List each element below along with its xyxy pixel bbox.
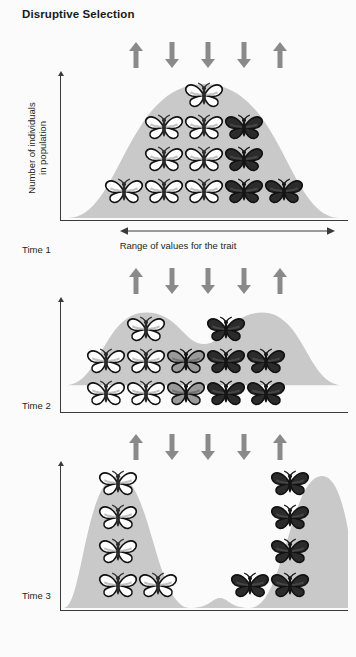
plot-area [60,424,348,632]
selection-arrow-up [272,434,288,460]
butterfly-light [126,316,166,343]
y-axis-arrowhead [58,297,64,302]
butterfly-light [184,146,224,173]
butterfly-light [98,538,138,565]
selection-panel-3: Time 3 [0,424,356,632]
butterfly-dark [206,348,246,375]
selection-panel-2: Time 2 [0,262,356,414]
butterfly-dark [224,178,264,205]
butterfly-dark [270,470,310,497]
plot-area [60,32,348,228]
x-axis [60,220,348,221]
selection-arrow-down [236,268,252,294]
butterfly-light [86,380,126,407]
butterfly-light [86,348,126,375]
butterfly-light [98,572,138,599]
x-axis [60,610,348,611]
selection-arrow-down [236,42,252,68]
butterfly-mid [166,348,206,375]
butterfly-light [144,146,184,173]
y-axis-arrowhead [58,461,64,466]
butterfly-dark [270,538,310,565]
selection-arrow-up [128,434,144,460]
y-axis [60,466,61,610]
selection-arrow-up [128,268,144,294]
y-axis-label-line1: Number of individuals [26,76,37,220]
butterfly-light [98,470,138,497]
x-axis [60,412,348,413]
butterfly-dark [206,380,246,407]
selection-arrow-down [164,268,180,294]
selection-panel-1: Number of individualsin populationTime 1… [0,32,356,228]
butterfly-light [104,178,144,205]
butterfly-dark [224,114,264,141]
butterfly-light [126,348,166,375]
selection-arrows [60,264,348,294]
y-axis-arrowhead [58,71,64,76]
butterfly-light [144,178,184,205]
selection-arrows [60,38,348,68]
selection-arrow-down [164,434,180,460]
y-axis-label-line2: in population [37,76,48,220]
x-axis-label: Range of values for the trait [0,240,356,251]
butterfly-light [184,178,224,205]
butterfly-dark [270,572,310,599]
selection-arrow-up [128,42,144,68]
butterfly-light [184,82,224,109]
y-axis [60,76,61,220]
butterfly-dark [246,380,286,407]
butterfly-dark [224,146,264,173]
butterfly-light [138,572,178,599]
selection-arrow-up [272,42,288,68]
selection-arrows [60,430,348,460]
butterfly-mid [166,380,206,407]
butterfly-light [126,380,166,407]
selection-arrow-down [200,434,216,460]
time-label: Time 2 [22,400,51,411]
time-label: Time 3 [22,590,51,601]
butterfly-dark [264,178,304,205]
range-double-arrow [120,226,335,236]
y-axis [60,302,61,412]
figure-root: Disruptive Selection Number of individua… [0,0,356,657]
selection-arrow-down [200,268,216,294]
selection-arrow-down [236,434,252,460]
butterfly-light [184,114,224,141]
butterfly-dark [246,348,286,375]
selection-arrow-down [200,42,216,68]
butterfly-dark [206,316,246,343]
butterfly-dark [230,572,270,599]
butterfly-dark [270,504,310,531]
selection-arrow-up [272,268,288,294]
y-axis-label: Number of individualsin population [26,76,48,220]
butterfly-light [98,504,138,531]
plot-area [60,262,348,414]
page-title: Disruptive Selection [22,8,135,20]
selection-arrow-down [164,42,180,68]
butterfly-light [144,114,184,141]
